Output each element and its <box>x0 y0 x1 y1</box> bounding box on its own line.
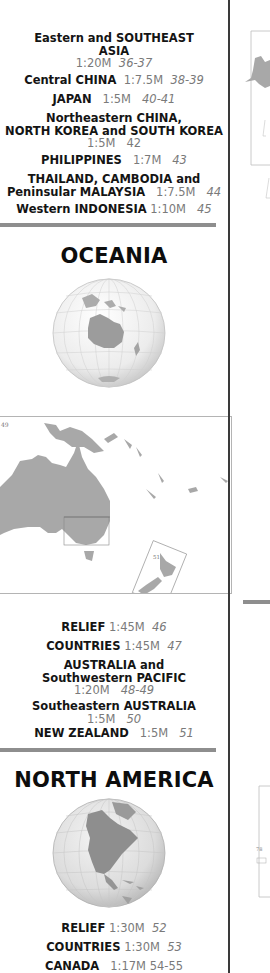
section-title-north-america: NORTH AMERICA <box>0 768 228 792</box>
entry-scale: 1:7.5M <box>156 185 195 199</box>
entry-scale: 1:30M <box>109 921 145 935</box>
toc-entry-canada[interactable]: CANADA 1:17M 54-55 <box>0 960 228 973</box>
oceania-overview-map[interactable]: 49 51 <box>0 416 232 594</box>
adjacent-column-partial: 78 <box>229 0 270 973</box>
toc-entry-central-china[interactable]: Central CHINA 1:7.5M 38-39 <box>0 74 228 87</box>
entry-pages: 47 <box>167 639 182 653</box>
adjacent-page-label: 78 <box>256 846 262 852</box>
entry-scale: 1:5M <box>87 136 115 150</box>
section-title-oceania: OCEANIA <box>0 244 228 268</box>
toc-entry-philippines[interactable]: PHILIPPINES 1:7M 43 <box>0 154 228 167</box>
entry-title: Western INDONESIA <box>16 202 146 216</box>
contents-column: Eastern and SOUTHEAST ASIA 1:20M 36-37 C… <box>0 0 228 973</box>
entry-pages: 44 <box>206 185 221 199</box>
globe-oceania-icon <box>52 278 166 388</box>
entry-pages: 43 <box>172 153 187 167</box>
toc-entry-southeastern-australia[interactable]: Southeastern AUSTRALIA 1:5M 50 <box>0 700 228 725</box>
toc-entry-thailand-cambodia-malaysia[interactable]: THAILAND, CAMBODIA and Peninsular MALAYS… <box>0 173 228 198</box>
entry-title: Southwestern PACIFIC <box>42 671 186 685</box>
toc-entry-oceania-relief[interactable]: RELIEF 1:45M 46 <box>0 621 228 634</box>
entry-pages: 40-41 <box>142 92 175 106</box>
section-divider <box>0 748 216 752</box>
entry-pages: 54-55 <box>150 959 183 973</box>
entry-scale: 1:45M <box>109 620 145 634</box>
entry-scale: 1:7.5M <box>124 73 163 87</box>
entry-pages: 48-49 <box>121 683 154 697</box>
toc-entry-australia-sw-pacific[interactable]: AUSTRALIA and Southwestern PACIFIC 1:20M… <box>0 659 228 697</box>
entry-scale: 1:5M <box>87 712 115 726</box>
oceania-map-graphic: 49 51 <box>0 417 231 593</box>
entry-title: CANADA <box>45 959 99 973</box>
entry-title: COUNTRIES <box>46 639 120 653</box>
entry-pages: 52 <box>152 921 167 935</box>
entry-title: RELIEF <box>61 620 105 634</box>
globe-north-america-icon <box>52 798 166 908</box>
entry-pages: 50 <box>126 712 141 726</box>
section-divider <box>0 223 216 227</box>
entry-title: Peninsular MALAYSIA <box>7 185 145 199</box>
entry-pages: 46 <box>152 620 167 634</box>
toc-entry-na-countries[interactable]: COUNTRIES 1:30M 53 <box>0 941 228 954</box>
entry-scale: 1:45M <box>124 639 160 653</box>
adjacent-column-graphics <box>229 0 270 973</box>
toc-entry-eastern-southeast-asia[interactable]: Eastern and SOUTHEAST ASIA 1:20M 36-37 <box>0 32 228 70</box>
entry-scale: 1:20M <box>76 56 112 70</box>
entry-title: PHILIPPINES <box>41 153 122 167</box>
toc-entry-new-zealand[interactable]: NEW ZEALAND 1:5M 51 <box>0 727 228 740</box>
entry-pages: 53 <box>167 940 182 954</box>
entry-scale: 1:20M <box>74 683 110 697</box>
toc-entry-na-relief[interactable]: RELIEF 1:30M 52 <box>0 922 228 935</box>
entry-scale: 1:10M <box>150 202 186 216</box>
entry-pages: 51 <box>179 726 194 740</box>
entry-title: NEW ZEALAND <box>34 726 129 740</box>
toc-entry-oceania-countries[interactable]: COUNTRIES 1:45M 47 <box>0 640 228 653</box>
entry-pages: 45 <box>197 202 212 216</box>
entry-title: JAPAN <box>53 92 92 106</box>
entry-pages: 38-39 <box>170 73 203 87</box>
entry-title: Central CHINA <box>24 73 116 87</box>
map-page-label: 49 <box>1 421 9 428</box>
entry-scale: 1:7M <box>133 153 161 167</box>
map-inset-label: 51 <box>153 554 160 560</box>
entry-scale: 1:5M <box>140 726 168 740</box>
entry-pages: 42 <box>126 136 141 150</box>
entry-scale: 1:17M <box>110 959 146 973</box>
entry-title: RELIEF <box>61 921 105 935</box>
toc-entry-northeastern-china-korea[interactable]: Northeastern CHINA, NORTH KOREA and SOUT… <box>0 112 228 150</box>
entry-title: COUNTRIES <box>46 940 120 954</box>
entry-pages: 36-37 <box>119 56 152 70</box>
entry-scale: 1:5M <box>103 92 131 106</box>
toc-entry-japan[interactable]: JAPAN 1:5M 40-41 <box>0 93 228 106</box>
entry-scale: 1:30M <box>124 940 160 954</box>
toc-entry-western-indonesia[interactable]: Western INDONESIA 1:10M 45 <box>0 203 228 216</box>
